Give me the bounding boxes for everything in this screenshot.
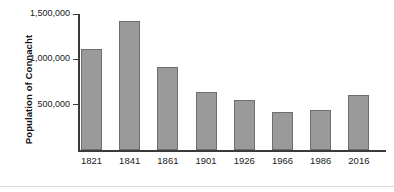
bar <box>234 100 255 150</box>
y-axis-tick-label: 1,500,000 <box>30 9 70 18</box>
bar <box>196 92 217 150</box>
x-axis-tick-label: 1861 <box>150 155 186 166</box>
bar <box>119 21 140 150</box>
y-axis-tick-label: 1,000,000 <box>30 54 70 63</box>
bar <box>81 49 102 150</box>
bar <box>348 95 369 150</box>
bar <box>157 67 178 150</box>
y-axis-tick-label: 500,000 <box>37 100 70 109</box>
x-axis-tick-label: 2016 <box>341 155 377 166</box>
x-axis-tick-label: 1841 <box>112 155 148 166</box>
y-axis-tick-mark <box>73 104 78 105</box>
x-axis-tick-label: 1986 <box>303 155 339 166</box>
y-axis-tick-mark <box>73 14 78 15</box>
y-axis-tick-mark <box>73 59 78 60</box>
y-axis-line <box>78 14 80 151</box>
page-bottom-rule <box>0 186 394 187</box>
x-axis-tick-label: 1966 <box>265 155 301 166</box>
x-axis-tick-label: 1926 <box>226 155 262 166</box>
bar <box>310 110 331 150</box>
x-axis-line <box>78 150 386 152</box>
bar <box>272 112 293 150</box>
bar-chart-figure: Population of Connacht 500,0001,000,0001… <box>0 0 394 192</box>
x-axis-tick-label: 1901 <box>188 155 224 166</box>
x-axis-tick-label: 1821 <box>74 155 110 166</box>
y-axis-title: Population of Connacht <box>23 10 34 170</box>
